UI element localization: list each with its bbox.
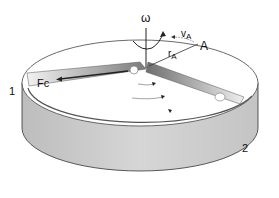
disk-top xyxy=(22,40,258,126)
diagram-canvas: ω vA rA A Fc 1 2 xyxy=(0,0,279,198)
omega-label: ω xyxy=(141,11,150,25)
velocity-label: vA xyxy=(181,28,192,41)
rotation-arrow-icon xyxy=(160,31,166,37)
force-label: Fc xyxy=(37,77,50,89)
rotating-disk-diagram: ω vA rA A Fc 1 2 xyxy=(0,0,279,198)
slot-1-label: 1 xyxy=(9,85,15,97)
ball-inner xyxy=(130,66,138,74)
velocity-arrow-icon xyxy=(171,35,175,39)
slot-2-label: 2 xyxy=(242,142,248,154)
point-a-label: A xyxy=(200,39,208,53)
ball-outer xyxy=(215,93,225,101)
